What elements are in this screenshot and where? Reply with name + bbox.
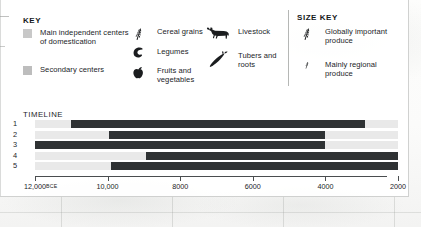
- legend-label: Globally important produce: [325, 27, 402, 46]
- legend-item-secondary-centers: Secondary centers: [23, 65, 133, 75]
- timeline-row-number: 2: [10, 130, 20, 139]
- timeline-row-number: 5: [10, 161, 20, 170]
- axis-tick-label: 6000: [245, 182, 261, 191]
- timeline-bar[interactable]: [146, 152, 398, 160]
- axis-tick: [398, 176, 399, 181]
- map-gridline: [0, 212, 421, 213]
- timeline-row: 1: [23, 120, 398, 128]
- key-title: KEY: [23, 16, 41, 25]
- axis-era-suffix: BCE: [46, 183, 58, 189]
- axis-tick: [35, 176, 36, 181]
- timeline-bar[interactable]: [35, 141, 325, 149]
- timeline-axis: [35, 176, 387, 177]
- timeline-bar[interactable]: [111, 162, 398, 170]
- axis-tick-label: 4000: [317, 182, 333, 191]
- legend-item-mainly-regional: Mainly regional produce: [297, 60, 402, 79]
- legend-divider: [288, 10, 289, 86]
- timeline-row: 2: [23, 131, 398, 139]
- carrot-icon: [205, 51, 230, 67]
- legend-item-main-centers: Main independent centers of domesticatio…: [23, 28, 133, 47]
- axis-tick: [108, 176, 109, 181]
- axis-tick-label: 10,000: [97, 182, 119, 191]
- legend-label: Livestock: [238, 27, 270, 36]
- timeline-bar[interactable]: [71, 120, 365, 128]
- timeline-row-number: 3: [10, 140, 20, 149]
- legend-timeline-panel: KEY SIZE KEY Main independent centers of…: [0, 0, 409, 197]
- axis-tick: [180, 176, 181, 181]
- legend-item-globally-important: Globally important produce: [297, 27, 402, 46]
- legend-item-livestock: Livestock: [205, 27, 290, 40]
- axis-tick-label: 12,000BCE: [24, 182, 58, 191]
- axis-tick: [253, 176, 254, 181]
- axis-tick-label: 2000: [390, 182, 406, 191]
- size-key-title: SIZE KEY: [297, 13, 338, 22]
- legend-label: Cereal grains: [157, 27, 203, 36]
- axis-tick: [325, 176, 326, 181]
- wheat-large-icon: [297, 27, 317, 42]
- axis-tick-label: 8000: [172, 182, 188, 191]
- timeline-row: 3: [23, 141, 398, 149]
- wheat-icon: [128, 27, 149, 42]
- legend-label: Legumes: [157, 47, 189, 56]
- legend-label: Mainly regional produce: [325, 60, 402, 79]
- secondary-centers-swatch: [23, 66, 32, 75]
- timeline-row: 4: [23, 152, 398, 160]
- legend-label: Main independent centers of domesticatio…: [40, 28, 133, 47]
- timeline-chart: 12345: [23, 120, 398, 172]
- cow-icon: [205, 27, 230, 40]
- legend-label: Tubers and roots: [238, 51, 290, 70]
- legend-label: Secondary centers: [40, 65, 104, 74]
- bean-icon: [128, 47, 149, 59]
- legend-item-tubers-roots: Tubers and roots: [205, 51, 290, 70]
- timeline-row-number: 4: [10, 151, 20, 160]
- main-centers-swatch: [23, 29, 32, 38]
- apple-icon: [128, 66, 149, 80]
- legend: KEY SIZE KEY Main independent centers of…: [0, 0, 408, 104]
- timeline-row: 5: [23, 162, 398, 170]
- wheat-small-icon: [297, 60, 317, 71]
- timeline-title: TIMELINE: [23, 110, 63, 119]
- timeline-bar[interactable]: [109, 131, 325, 139]
- timeline-row-number: 1: [10, 119, 20, 128]
